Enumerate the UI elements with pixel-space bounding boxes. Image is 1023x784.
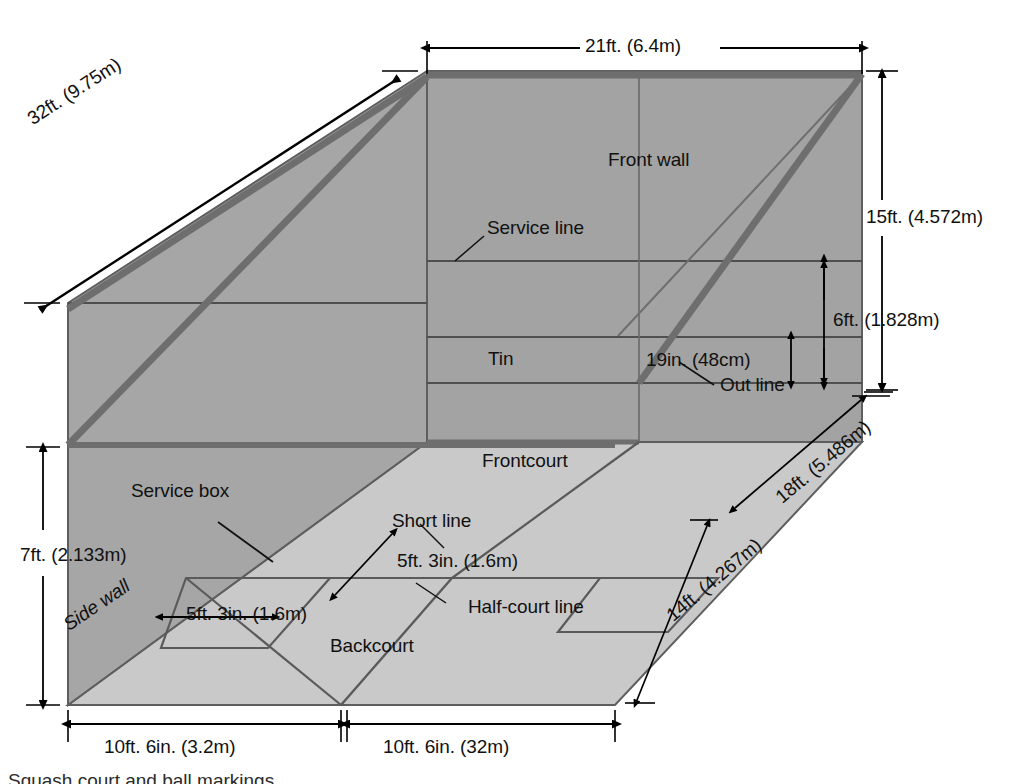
label-out-line: Out line: [720, 375, 785, 395]
label-service-box-depth-right: 5ft. 3in. (1.6m): [397, 551, 518, 571]
label-service-line: Service line: [487, 218, 584, 238]
label-tin-height: 19in. (48cm): [646, 350, 750, 370]
label-frontcourt: Frontcourt: [482, 451, 568, 471]
front-wall-surface: [427, 71, 862, 442]
label-service-box: Service box: [131, 481, 229, 501]
label-half-court-left: 10ft. 6in. (3.2m): [104, 737, 235, 757]
squash-court-diagram: 32ft. (9.75m) 21ft. (6.4m) Front wall Se…: [0, 0, 1023, 784]
label-half-court-line: Half-court line: [468, 597, 584, 617]
dim-front-wall-height: [866, 71, 900, 390]
label-back-wall-height: 7ft. (2.133m): [20, 545, 126, 565]
label-court-width: 21ft. (6.4m): [585, 36, 681, 56]
label-half-court-right: 10ft. 6in. (32m): [383, 737, 509, 757]
label-tin: Tin: [488, 349, 513, 369]
dim-back-wall-height: [26, 447, 62, 705]
figure-caption: Squash court and ball markings: [8, 770, 274, 784]
court-illustration: [0, 0, 1023, 784]
label-service-line-height: 6ft. (1.828m): [833, 310, 939, 330]
label-short-line: Short line: [392, 511, 471, 531]
label-front-wall: Front wall: [608, 150, 689, 170]
label-front-wall-height: 15ft. (4.572m): [866, 207, 983, 227]
label-backcourt: Backcourt: [330, 636, 414, 656]
label-service-box-depth-left: 5ft. 3in. (1.6m): [186, 604, 307, 624]
